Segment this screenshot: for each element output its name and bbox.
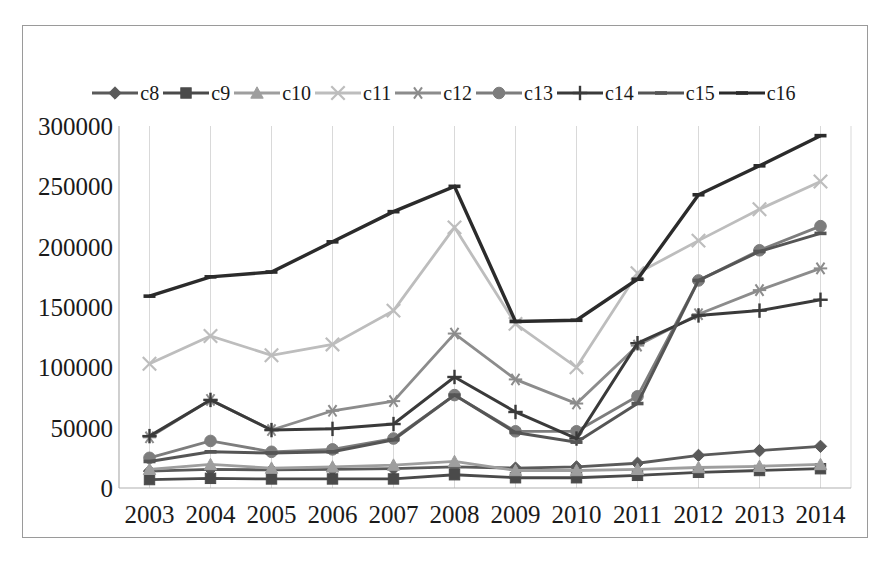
marker-diamond — [109, 87, 121, 99]
x-axis-tick-label: 2011 — [613, 502, 662, 527]
marker-square — [181, 88, 191, 98]
x-axis-tick-label: 2014 — [796, 502, 846, 527]
x-axis-tick-label: 2010 — [552, 502, 602, 527]
x-axis-tick-label: 2012 — [674, 502, 724, 527]
marker-triangle — [251, 87, 263, 98]
x-axis-tick-label: 2013 — [735, 502, 785, 527]
x-axis-tick-label: 2007 — [369, 502, 419, 527]
legend-marker-line-icon — [650, 83, 672, 103]
legend-marker-x-icon — [327, 83, 349, 103]
legend-marker-circle-icon — [488, 83, 510, 103]
legend-marker-triangle-icon — [246, 83, 268, 103]
legend-marker-line-icon — [731, 83, 753, 103]
x-axis-tick-label: 2005 — [247, 502, 297, 527]
x-axis-tick-label: 2008 — [430, 502, 480, 527]
x-axis-tick-label: 2003 — [125, 502, 175, 527]
legend-marker-asterisk-icon — [407, 83, 429, 103]
marker-line — [736, 91, 748, 95]
marker-circle — [493, 87, 505, 99]
chart-frame: c8c9c10c11c12c13c14c15c16 05000010000015… — [22, 25, 868, 538]
legend-marker-plus-icon — [569, 83, 591, 103]
x-axis-tick-label: 2006 — [308, 502, 358, 527]
legend-marker-diamond-icon — [104, 83, 126, 103]
legend-marker-square-icon — [175, 83, 197, 103]
marker-line — [655, 91, 667, 95]
x-axis-tick-label: 2004 — [186, 502, 236, 527]
x-axis-tick-label: 2009 — [491, 502, 541, 527]
